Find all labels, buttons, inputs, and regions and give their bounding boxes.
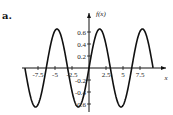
axes [22, 13, 166, 112]
x-tick-label: 5 [121, 71, 125, 79]
y-axis-label: f(x) [96, 10, 106, 18]
x-axis-arrow-icon [161, 66, 166, 70]
x-tick-label: -7.5 [32, 71, 44, 79]
function-plot: -7.5-5-2.52.557.50.60.40.2-0.2-0.4-0.6xf… [0, 0, 173, 115]
y-tick-label: -0.4 [75, 89, 87, 97]
y-tick-label: 0.4 [77, 41, 86, 49]
x-tick-label: 2.5 [102, 71, 111, 79]
x-tick-label: 7.5 [136, 71, 145, 79]
y-tick-label: -0.6 [75, 101, 87, 109]
x-axis-label: x [163, 74, 168, 82]
y-tick-label: 0.2 [77, 53, 86, 61]
x-tick-label: -5 [52, 71, 58, 79]
y-axis-arrow-icon [87, 13, 91, 18]
y-tick-label: 0.6 [77, 29, 86, 37]
tick-labels: -7.5-5-2.52.557.50.60.40.2-0.2-0.4-0.6xf… [32, 10, 168, 109]
y-tick-label: -0.2 [75, 77, 87, 85]
